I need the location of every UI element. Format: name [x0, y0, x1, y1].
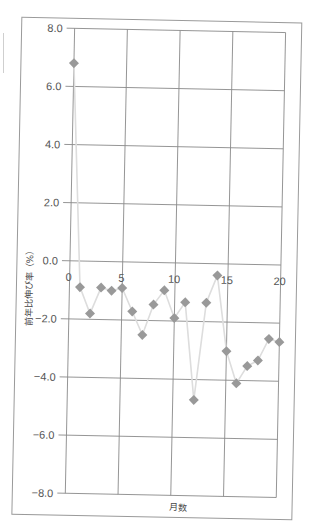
line-chart: 8.06.04.02.00.0−2.0−4.0−6.0−8.0 05101520… [0, 0, 310, 523]
data-point-marker [221, 346, 231, 356]
data-point-marker [85, 308, 95, 318]
x-axis-ticks: 05101520 [65, 271, 285, 287]
gridline-horizontal [60, 377, 279, 381]
data-point-marker [189, 395, 199, 405]
x-axis-title: 月数 [169, 501, 187, 512]
data-point-marker [274, 337, 284, 347]
x-tick-label: 15 [221, 274, 233, 286]
data-point-marker [137, 330, 147, 340]
data-point-marker [117, 283, 127, 293]
data-point-marker [127, 306, 137, 316]
gridline-horizontal [67, 28, 286, 32]
data-point-marker [231, 378, 241, 388]
gridline-horizontal [65, 86, 284, 90]
y-tick-label: 6.0 [46, 80, 62, 92]
gridline-horizontal [63, 203, 282, 207]
data-point-marker [264, 334, 274, 344]
gridline-horizontal [57, 493, 276, 497]
gridline-horizontal [62, 261, 281, 265]
data-point-marker [201, 298, 211, 308]
y-tick-label: −8.0 [31, 487, 53, 499]
x-tick-label: 20 [273, 275, 285, 287]
gridline-horizontal [64, 144, 283, 148]
data-point-marker [69, 58, 79, 68]
y-tick-label: 8.0 [47, 22, 63, 34]
data-point-marker [75, 282, 85, 292]
y-axis-ticks: 8.06.04.02.00.0−2.0−4.0−6.0−8.0 [31, 22, 62, 499]
data-point-marker [180, 297, 190, 307]
data-point-marker [106, 286, 116, 296]
x-tick-label: 5 [118, 272, 124, 284]
gridline-horizontal [58, 435, 277, 439]
data-point-marker [96, 282, 106, 292]
y-tick-label: 2.0 [44, 196, 60, 208]
data-point-marker [242, 361, 252, 371]
x-tick-label: 10 [168, 273, 180, 285]
y-tick-label: 4.0 [45, 138, 61, 150]
y-tick-label: −6.0 [33, 428, 55, 440]
y-tick-label: 0.0 [43, 254, 59, 266]
data-point-marker [169, 313, 179, 323]
data-point-marker [253, 355, 263, 365]
y-tick-label: −4.0 [34, 370, 56, 382]
plot-grid [57, 28, 285, 497]
x-tick-label: 0 [65, 271, 71, 283]
gridline-horizontal [61, 319, 280, 323]
y-tick-label: −2.0 [35, 312, 57, 324]
y-axis-title: 前年比伸び率（%） [23, 246, 36, 327]
chart-frame [12, 17, 302, 520]
